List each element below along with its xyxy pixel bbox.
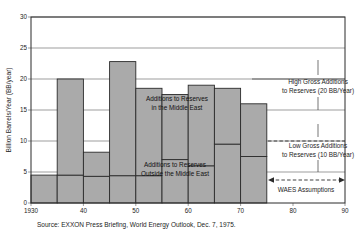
annotation-high-gross: High Gross Additions to Reserves (20 BB/… — [252, 60, 354, 110]
y-axis-ticks: 30 25 20 15 10 5 0 — [20, 13, 31, 206]
high-gross-line1: High Gross Additions — [288, 78, 348, 86]
bar-segment-outside-1940 — [83, 176, 109, 203]
y-tick-20: 20 — [20, 75, 28, 82]
bar-segment-outside-1935 — [57, 175, 83, 203]
x-tick-1940: 40 — [80, 207, 88, 214]
waes-arrow-left-icon — [268, 177, 274, 183]
source-note: Source: EXXON Press Briefing, World Ener… — [37, 221, 236, 229]
outside-label-line1: Additions to Reserves — [144, 161, 206, 168]
y-tick-0: 0 — [23, 199, 27, 206]
x-tick-1930: 1930 — [24, 207, 39, 214]
y-tick-10: 10 — [20, 137, 28, 144]
bar-segment-outside-1970 — [241, 157, 267, 204]
chart-figure: Billion Barrels/Year (BB/year) 30 25 20 … — [0, 0, 360, 231]
y-axis-title: Billion Barrels/Year (BB/year) — [5, 67, 13, 152]
bar-segment-outside-1950 — [136, 176, 162, 203]
annotation-waes: WAES Assumptions — [268, 177, 345, 194]
low-gross-line2: to Reserves (10 BB/Year) — [282, 151, 354, 159]
high-gross-line2: to Reserves (20 BB/Year) — [282, 87, 354, 95]
low-gross-line1: Low Gross Additions — [289, 142, 347, 149]
bar-segment-outside-1945 — [110, 176, 136, 203]
x-tick-1950: 50 — [132, 207, 140, 214]
bar-group — [31, 62, 267, 203]
outside-label-line2: Outside the Middle East — [141, 170, 209, 177]
waes-arrow-right-icon — [339, 177, 345, 183]
middle-east-label-line2: in the Middle East — [152, 104, 203, 111]
annotation-low-gross: Low Gross Additions to Reserves (10 BB/Y… — [268, 124, 354, 172]
bar-segment-middleeast-1940 — [83, 152, 109, 176]
x-tick-1980: 80 — [289, 207, 297, 214]
waes-label: WAES Assumptions — [278, 186, 335, 194]
x-axis-ticks: 1930 40 50 60 70 80 90 — [24, 203, 349, 214]
y-tick-5: 5 — [23, 168, 27, 175]
x-tick-1970: 70 — [237, 207, 245, 214]
bar-segment-middleeast-1945 — [110, 62, 136, 176]
bar-segment-outside-1930 — [31, 175, 57, 203]
y-tick-15: 15 — [20, 106, 28, 113]
chart-svg: Billion Barrels/Year (BB/year) 30 25 20 … — [0, 0, 360, 231]
bar-segment-middleeast-1970 — [241, 104, 267, 157]
bar-segment-middleeast-1935 — [57, 79, 83, 175]
x-tick-1960: 60 — [185, 207, 193, 214]
x-tick-1990: 90 — [341, 207, 349, 214]
bar-segment-outside-1965 — [214, 144, 240, 203]
bar-segment-middleeast-1965 — [214, 88, 240, 144]
y-tick-30: 30 — [20, 13, 28, 20]
middle-east-label-line1: Additions to Reserves — [146, 95, 208, 102]
y-tick-25: 25 — [20, 44, 28, 51]
